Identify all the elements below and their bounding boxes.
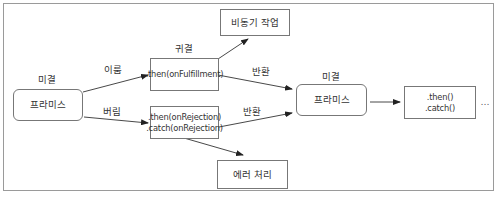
edge-fulfill-arrow [83, 75, 148, 92]
node-promise-returned-label: 프라미스 [314, 94, 350, 106]
node-next-chain: .then() .catch() [404, 86, 476, 119]
node-then-fulfillment: .then(onFulfillment) [150, 58, 219, 91]
state-label-pending-initial: 미결 [38, 74, 56, 86]
node-async-task: 비동기 작업 [220, 9, 290, 36]
node-error-handling: 에러 처리 [217, 160, 288, 189]
edge-error-arrow [184, 138, 243, 155]
node-error-handling-label: 에러 처리 [233, 169, 272, 181]
node-then-rejection: .then(onRejection) .catch(onRejection) [150, 106, 219, 139]
state-label-pending-returned: 미결 [322, 71, 340, 83]
node-next-chain-line-1: .then() [427, 92, 454, 103]
node-then-rejection-line-2: .catch(onRejection) [146, 123, 223, 134]
node-async-task-label: 비동기 작업 [231, 17, 279, 29]
node-then-rejection-line-1: .then(onRejection) [148, 112, 221, 123]
node-promise-initial-label: 프라미스 [30, 99, 66, 111]
node-next-chain-line-2: .catch() [425, 103, 455, 114]
node-promise-returned: 프라미스 [296, 84, 367, 116]
edge-label-fulfill: 이룸 [104, 64, 122, 76]
node-then-fulfillment-line: .then(onFulfillment) [146, 69, 224, 80]
node-promise-initial: 프라미스 [13, 89, 83, 121]
state-label-settled: 귀결 [175, 43, 193, 55]
edge-label-return-top: 반환 [252, 66, 270, 78]
edge-label-return-bottom: 반환 [243, 106, 261, 118]
ellipsis-continuation: ... [480, 96, 489, 108]
edge-async-arrow [218, 39, 248, 59]
edge-label-reject: 버림 [103, 106, 121, 118]
